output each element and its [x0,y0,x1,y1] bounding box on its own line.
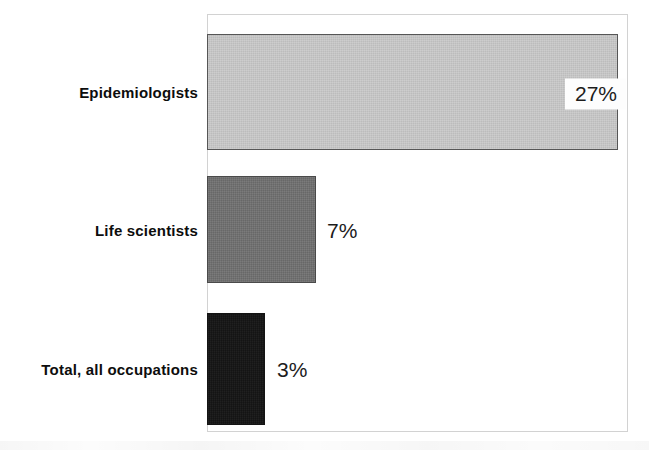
category-label-epidemiologists: Epidemiologists [79,84,198,101]
chart-page: Epidemiologists Life scientists Total, a… [0,0,649,453]
category-label-life-scientists: Life scientists [95,222,198,239]
scan-artifact [0,441,649,450]
bar-life-scientists [207,176,316,283]
value-label-total-all-occupations: 3% [277,358,307,382]
bar-total-all-occupations [207,313,265,425]
category-label-total-all-occupations: Total, all occupations [41,361,198,378]
bar-epidemiologists [207,34,618,150]
value-label-life-scientists: 7% [327,219,357,243]
value-label-epidemiologists: 27% [565,79,626,110]
